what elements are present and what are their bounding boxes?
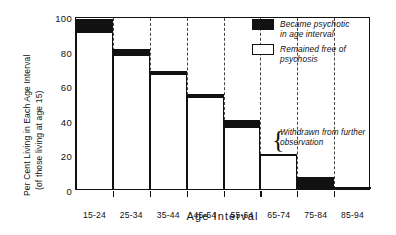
x-tick-mark — [297, 191, 298, 197]
bar-segment-psychotic — [113, 49, 150, 56]
bar-segment-psychotic — [224, 120, 261, 129]
x-tick-mark — [260, 191, 261, 197]
bar-segment-free — [224, 128, 261, 189]
bar-75-84 — [297, 177, 334, 189]
legend-label-line-1: Became psychotic — [280, 19, 350, 29]
x-tick-mark — [150, 191, 151, 197]
y-tick-label: 20 — [61, 151, 72, 162]
legend-label-line-2: psychosis — [280, 54, 346, 64]
y-tick-label: 0 — [66, 186, 72, 197]
x-tick-mark — [113, 191, 114, 197]
y-tick-label: 80 — [61, 47, 72, 58]
withdrawn-annotation: Withdrawn from further observation — [280, 128, 385, 147]
bar-25-34 — [113, 49, 150, 189]
bar-segment-free — [260, 154, 297, 189]
legend-label-line-2: in age interval — [280, 29, 350, 39]
bar-segment-psychotic — [150, 71, 187, 74]
bar-15-24 — [76, 19, 113, 189]
bar-segment-free — [187, 98, 224, 189]
y-axis-title-sub: (of those living at age 15) — [34, 91, 44, 191]
bar-65-74 — [260, 154, 297, 189]
bar-top-rule — [260, 154, 297, 155]
chart-legend: Became psychoticin age intervalRemained … — [252, 19, 364, 69]
legend-swatch-empty — [252, 44, 274, 55]
bar-segment-psychotic — [187, 94, 224, 98]
bar-segment-psychotic — [297, 177, 334, 189]
legend-label: Became psychoticin age interval — [280, 19, 350, 39]
legend-item-1: Remained free ofpsychosis — [252, 44, 364, 64]
y-tick-label: 40 — [61, 116, 72, 127]
annotation-line-2: observation — [280, 138, 385, 148]
y-axis-title: Per Cent Living in Each Age Interval (of… — [0, 0, 58, 200]
bar-segment-psychotic — [334, 187, 371, 189]
bar-85-94 — [334, 188, 371, 189]
bar-55-64 — [224, 120, 261, 189]
bar-segment-psychotic — [76, 19, 113, 33]
bar-35-44 — [150, 71, 187, 189]
bar-segment-free — [113, 56, 150, 189]
legend-item-0: Became psychoticin age interval — [252, 19, 364, 39]
x-tick-mark — [187, 191, 188, 197]
bar-segment-free — [76, 33, 113, 189]
y-tick-label: 100 — [55, 13, 72, 24]
x-tick-mark — [224, 191, 225, 197]
y-axis-title-main: Per Cent Living in Each Age Interval — [22, 55, 32, 196]
legend-label-line-1: Remained free of — [280, 44, 346, 54]
annotation-line-1: Withdrawn from further — [280, 128, 385, 138]
x-axis-title: Age Interval — [75, 210, 370, 222]
y-tick-label: 60 — [61, 82, 72, 93]
bar-45-54 — [187, 94, 224, 189]
legend-label: Remained free ofpsychosis — [280, 44, 346, 64]
bar-segment-free — [150, 75, 187, 189]
chart-container: Per Cent Living in Each Age Interval (of… — [0, 0, 396, 235]
legend-swatch-filled — [252, 19, 274, 30]
x-tick-mark — [334, 191, 335, 197]
